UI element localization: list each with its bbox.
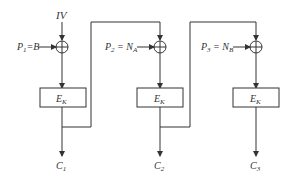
- feedback-1-to-2: [62, 22, 160, 127]
- block-1: P1=B EK C1: [16, 41, 86, 173]
- feedback-2-to-3: [160, 22, 256, 127]
- xor-icon: [250, 41, 262, 53]
- cbc-diagram: IV P1=B EK C1 P2 = NA: [0, 0, 296, 182]
- plaintext-2-label: P2 = NA: [104, 41, 138, 54]
- iv-label: IV: [55, 9, 68, 21]
- plaintext-1-label: P1=B: [16, 41, 39, 54]
- ciphertext-1-label: C1: [56, 160, 66, 173]
- ciphertext-2-label: C2: [154, 160, 165, 173]
- xor-icon: [154, 41, 166, 53]
- plaintext-3-label: P3 = NB: [200, 41, 234, 54]
- block-2: P2 = NA EK C2: [104, 41, 183, 173]
- ciphertext-3-label: C3: [250, 160, 261, 173]
- block-3: P3 = NB EK C3: [200, 41, 279, 173]
- xor-icon: [56, 41, 68, 53]
